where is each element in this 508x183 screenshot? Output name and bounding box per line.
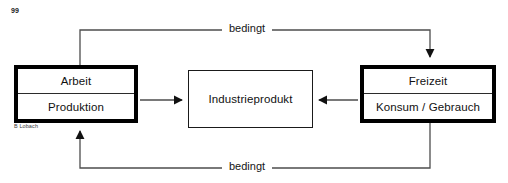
node-arbeit-produktion[interactable]: Arbeit Produktion: [14, 65, 138, 123]
diagram-canvas: 99 Arbeit Produktion Industrieproduk: [0, 0, 508, 183]
node-konsum-gebrauch-label: Konsum / Gebrauch: [364, 94, 492, 119]
node-produktion-label: Produktion: [18, 94, 134, 119]
edge-arbeit-to-freizeit-top: [80, 30, 430, 65]
edge-label-bedingt-top: bedingt: [222, 22, 272, 35]
node-industrieprodukt[interactable]: Industrieprodukt: [188, 70, 313, 128]
edge-label-bedingt-bottom: bedingt: [222, 160, 272, 173]
node-arbeit-label: Arbeit: [18, 69, 134, 94]
node-freizeit-label: Freizeit: [364, 69, 492, 94]
node-freizeit-konsum[interactable]: Freizeit Konsum / Gebrauch: [360, 65, 496, 123]
source-credit: B Lobach: [14, 123, 38, 129]
node-industrieprodukt-label: Industrieprodukt: [189, 71, 312, 127]
